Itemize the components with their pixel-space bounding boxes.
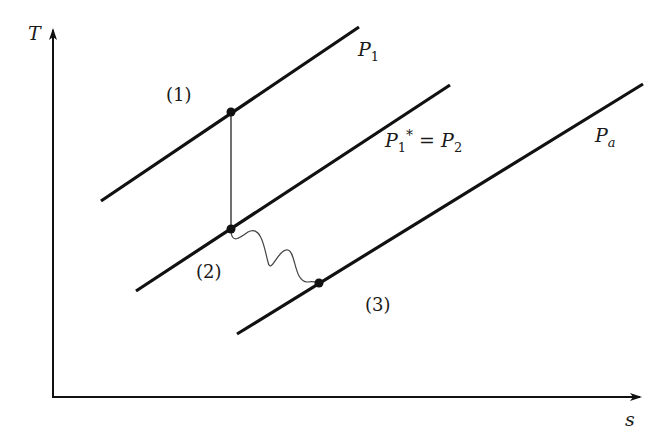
state-label-2: (2) bbox=[196, 261, 222, 282]
y-axis-label: T bbox=[28, 22, 42, 44]
isobar-p2 bbox=[136, 85, 450, 291]
isobar-label-p2: P1* = P2 bbox=[384, 127, 462, 155]
process-2-3-irreversible bbox=[231, 229, 319, 283]
x-axis-label: s bbox=[625, 408, 635, 430]
ts-diagram: T s P1 P1* = P2 Pa (1) (2) (3) bbox=[0, 0, 670, 448]
state-point-1 bbox=[227, 108, 236, 117]
state-label-1: (1) bbox=[166, 84, 192, 105]
state-point-2 bbox=[227, 225, 236, 234]
isobar-label-pa: Pa bbox=[594, 124, 616, 150]
state-label-3: (3) bbox=[365, 294, 391, 315]
state-point-3 bbox=[315, 279, 324, 288]
isobar-label-p1: P1 bbox=[357, 38, 379, 64]
isobar-pa bbox=[237, 84, 643, 334]
